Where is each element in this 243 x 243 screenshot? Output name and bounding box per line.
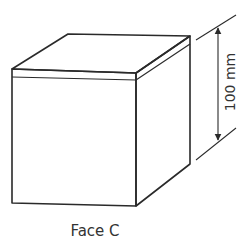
face-c-band-front [12, 77, 136, 80]
dimension-label: 100 mm [222, 53, 238, 111]
cube-front-face [12, 69, 136, 206]
cube [12, 34, 190, 206]
extension-line-bottom [196, 128, 236, 160]
extension-line-top [196, 15, 236, 40]
face-c-band-right [136, 44, 190, 80]
caption: Face C [70, 222, 119, 240]
cube-diagram: 100 mm Face C [0, 0, 243, 243]
dimension: 100 mm [196, 15, 238, 160]
